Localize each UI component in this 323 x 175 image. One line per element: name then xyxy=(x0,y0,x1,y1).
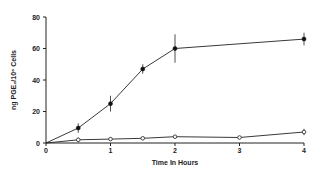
x-tick-label: 1 xyxy=(109,147,113,154)
y-tick-label: 20 xyxy=(32,108,40,115)
data-point xyxy=(76,126,80,130)
data-point xyxy=(141,136,145,140)
y-tick-label: 40 xyxy=(32,77,40,84)
data-point xyxy=(302,130,306,134)
data-point xyxy=(173,47,177,51)
y-axis-title: ng PGE₂/10⁶ Cells xyxy=(10,50,18,110)
data-point xyxy=(141,67,145,71)
y-tick-label: 80 xyxy=(32,14,40,21)
data-point xyxy=(109,137,113,141)
x-tick-label: 4 xyxy=(302,147,306,154)
series-open-circles xyxy=(46,129,306,143)
y-tick-label: 0 xyxy=(36,140,40,147)
data-point xyxy=(302,37,306,41)
x-tick-label: 2 xyxy=(173,147,177,154)
data-point xyxy=(238,136,242,140)
series xyxy=(46,33,306,143)
y-tick-label: 60 xyxy=(32,45,40,52)
data-point xyxy=(76,138,80,142)
x-axis-title: Time In Hours xyxy=(152,159,199,166)
series-filled-circles xyxy=(46,33,306,143)
data-point xyxy=(173,135,177,139)
ticks: 02040608001234 xyxy=(32,14,306,155)
chart: 02040608001234 Time In Hours ng PGE₂/10⁶… xyxy=(0,0,323,175)
x-tick-label: 0 xyxy=(44,147,48,154)
data-point xyxy=(109,102,113,106)
x-tick-label: 3 xyxy=(238,147,242,154)
